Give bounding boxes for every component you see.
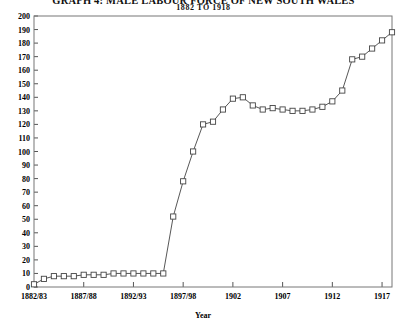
data-point	[230, 96, 235, 101]
x-tick-label: 1887/88	[71, 292, 97, 301]
data-point	[270, 106, 275, 111]
y-tick-label: 100	[18, 148, 30, 157]
y-tick-label: 0	[26, 283, 30, 292]
data-point	[280, 107, 285, 112]
plot-area: 0102030405060708090100110120130140150160…	[0, 0, 407, 323]
data-point	[161, 271, 166, 276]
x-tick-label: 1902	[225, 292, 241, 301]
x-tick-label: 1912	[324, 292, 340, 301]
y-tick-label: 170	[18, 53, 30, 62]
data-point	[290, 108, 295, 113]
y-tick-label: 20	[22, 256, 30, 265]
data-point	[71, 274, 76, 279]
data-point	[200, 122, 205, 127]
y-tick-label: 70	[22, 188, 30, 197]
data-point	[121, 271, 126, 276]
y-axis: 0102030405060708090100110120130140150160…	[18, 12, 38, 292]
y-tick-label: 110	[18, 134, 30, 143]
y-tick-label: 40	[22, 229, 30, 238]
data-point	[370, 46, 375, 51]
data-point	[389, 30, 394, 35]
data-point	[81, 272, 86, 277]
data-point	[141, 271, 146, 276]
data-point	[240, 95, 245, 100]
y-tick-label: 160	[18, 66, 30, 75]
data-point	[61, 274, 66, 279]
x-tick-label: 1897/98	[170, 292, 196, 301]
y-tick-label: 50	[22, 215, 30, 224]
data-point	[300, 108, 305, 113]
data-point	[360, 54, 365, 59]
x-tick-label: 1907	[275, 292, 291, 301]
data-point	[31, 282, 36, 287]
y-tick-label: 90	[22, 161, 30, 170]
data-markers	[31, 30, 394, 287]
y-tick-label: 120	[18, 120, 30, 129]
chart-container: GRAPH 4: MALE LABOUR FORCE OF NEW SOUTH …	[0, 0, 407, 323]
data-point	[379, 38, 384, 43]
y-tick-label: 140	[18, 93, 30, 102]
x-tick-label: 1882/83	[21, 292, 47, 301]
data-point	[340, 88, 345, 93]
x-axis: 1882/831887/881892/931897/98190219071912…	[21, 282, 390, 301]
data-point	[260, 107, 265, 112]
y-tick-label: 200	[18, 12, 30, 21]
data-point	[220, 107, 225, 112]
y-tick-label: 190	[18, 26, 30, 35]
y-tick-label: 180	[18, 39, 30, 48]
data-point	[111, 271, 116, 276]
x-tick-label: 1917	[374, 292, 390, 301]
data-point	[41, 276, 46, 281]
data-point	[350, 57, 355, 62]
data-point	[320, 104, 325, 109]
data-point	[91, 272, 96, 277]
y-tick-label: 150	[18, 80, 30, 89]
data-point	[151, 271, 156, 276]
y-tick-label: 30	[22, 242, 30, 251]
data-point	[131, 271, 136, 276]
y-tick-label: 130	[18, 107, 30, 116]
data-point	[250, 103, 255, 108]
data-point	[51, 274, 56, 279]
x-tick-label: 1892/93	[120, 292, 146, 301]
data-point	[181, 179, 186, 184]
y-tick-label: 80	[22, 175, 30, 184]
data-point	[330, 99, 335, 104]
data-point	[101, 272, 106, 277]
y-tick-label: 10	[22, 269, 30, 278]
data-point	[310, 107, 315, 112]
data-point	[171, 214, 176, 219]
data-line	[34, 32, 392, 284]
plot-frame	[34, 16, 392, 287]
y-tick-label: 60	[22, 202, 30, 211]
data-point	[191, 149, 196, 154]
data-point	[210, 119, 215, 124]
